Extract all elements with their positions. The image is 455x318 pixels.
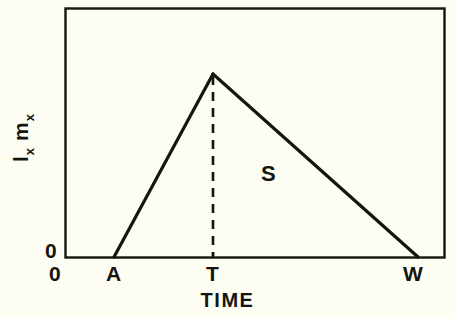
x-tick-label-t: T (206, 263, 219, 284)
x-axis-zero-label: 0 (49, 263, 61, 284)
y-axis-label-l-subscript: x (22, 148, 37, 155)
x-tick-label-a: A (106, 263, 122, 284)
y-axis-label-m: m (9, 121, 32, 141)
y-axis-zero-label: 0 (45, 240, 57, 261)
y-axis-label: lxmx (8, 78, 38, 198)
curve-descending-limb (213, 74, 418, 257)
area-annotation-s: S (261, 163, 276, 185)
triangular-reproduction-curve-chart (0, 0, 455, 318)
x-tick-label-w: W (403, 263, 423, 284)
x-axis-title: TIME (0, 290, 455, 310)
y-axis-label-text: lxmx (9, 114, 36, 162)
y-axis-label-m-subscript: x (22, 114, 37, 121)
y-axis-label-l: l (9, 155, 32, 162)
plot-frame (66, 9, 445, 258)
curve-ascending-limb (114, 74, 213, 257)
figure-container: lxmx 0 0 A T W S TIME (0, 0, 455, 318)
